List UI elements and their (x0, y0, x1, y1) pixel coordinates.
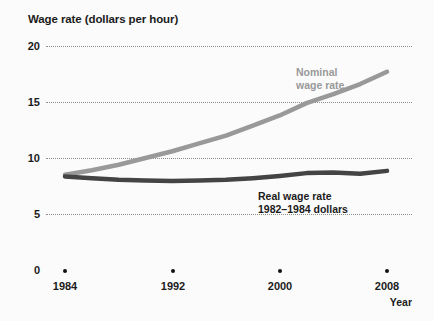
x-tick-1984: 1984 (53, 280, 77, 292)
x-tick-dot-2008 (385, 269, 389, 273)
chart-figure: Wage rate (dollars per hour) 20 15 10 5 … (0, 0, 434, 321)
series-label-real: Real wage rate 1982–1984 dollars (258, 190, 348, 216)
x-tick-2000: 2000 (268, 280, 292, 292)
x-axis: 1984 1992 2000 2008 (46, 268, 412, 308)
y-tick-20: 20 (14, 40, 40, 52)
series-label-real-line2: 1982–1984 dollars (258, 203, 348, 216)
y-tick-10: 10 (14, 152, 40, 164)
y-tick-0: 0 (14, 264, 40, 276)
series-label-nominal: Nominal wage rate (296, 66, 344, 92)
y-axis-labels: 20 15 10 5 0 (12, 46, 40, 270)
x-tick-dot-1984 (63, 269, 67, 273)
series-label-nominal-line1: Nominal (296, 66, 344, 79)
y-tick-5: 5 (14, 208, 40, 220)
series-label-real-line1: Real wage rate (258, 190, 348, 203)
chart-title: Wage rate (dollars per hour) (28, 13, 178, 25)
y-tick-15: 15 (14, 96, 40, 108)
x-tick-2008: 2008 (375, 280, 399, 292)
series-line-real (65, 171, 387, 181)
series-container (46, 46, 412, 270)
x-tick-1992: 1992 (161, 280, 185, 292)
x-tick-dot-1992 (171, 269, 175, 273)
series-label-nominal-line2: wage rate (296, 79, 344, 92)
x-axis-title: Year (390, 296, 412, 308)
x-tick-dot-2000 (278, 269, 282, 273)
